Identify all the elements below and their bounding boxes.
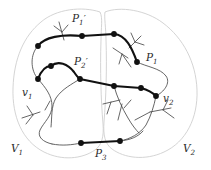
edge-sub-p3left <box>52 143 81 145</box>
diagram-svg <box>0 0 211 170</box>
figure-canvas: P1′ P2′ P1 P3 v1 v2 V1 V2 <box>0 0 211 170</box>
node-p1p-mid <box>79 33 85 39</box>
edge-p2pmid-down <box>114 86 139 133</box>
twig-p1-c <box>131 33 135 42</box>
graph-nodes <box>35 31 159 146</box>
twig-p1-b <box>135 42 144 45</box>
edge-v1-down <box>38 79 52 144</box>
node-p3-right <box>117 138 123 144</box>
bold-path-p2-prime <box>51 63 141 88</box>
region-v1-outline <box>13 9 103 158</box>
node-v2 <box>153 93 159 99</box>
twig-mid-b <box>107 102 111 114</box>
node-p2p-mid <box>111 83 117 89</box>
bold-path-p1-prime <box>38 34 114 46</box>
twig-v2-b <box>163 110 174 118</box>
region-v2-outline <box>104 9 197 157</box>
twig-mid-c <box>124 100 131 108</box>
twig-v1-sub-b <box>27 106 33 115</box>
edge-p1pleft-v1 <box>32 46 38 79</box>
node-p1p-right <box>111 31 117 37</box>
node-p2p-right <box>138 85 144 91</box>
twig-p1-e <box>119 54 122 64</box>
node-v1 <box>35 76 41 82</box>
node-p1p-left <box>35 43 41 49</box>
edge-p1corner-loop <box>137 62 168 96</box>
node-p2p-hump <box>48 63 54 69</box>
node-p1-corner <box>134 59 140 65</box>
twig-p1p-c <box>62 25 68 32</box>
node-p2p-left <box>77 76 83 82</box>
twig-mid-d <box>118 104 122 120</box>
twig-p1-d <box>113 48 128 58</box>
twig-v1-sub-d <box>45 101 50 110</box>
edge-p2pleft-down <box>51 79 80 127</box>
twig-v2-d <box>135 112 150 120</box>
bold-path-p3 <box>81 141 120 143</box>
node-p3-left <box>78 140 84 146</box>
twig-p1-f <box>122 54 131 67</box>
